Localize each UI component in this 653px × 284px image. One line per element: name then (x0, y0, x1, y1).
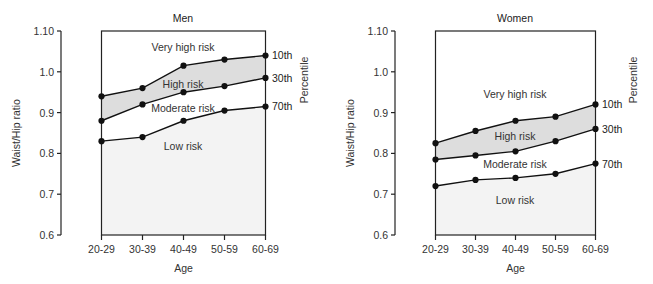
data-point (180, 89, 186, 95)
data-point (512, 175, 518, 181)
percentile-label: 10th (272, 49, 293, 61)
x-tick-label: 50-59 (211, 243, 238, 255)
percentile-label: 30th (602, 123, 623, 135)
data-point (472, 128, 478, 134)
figure-canvas: 0.60.70.80.91.01.1020-2930-3940-4950-596… (0, 0, 653, 284)
data-point (139, 134, 145, 140)
x-tick-label: 60-69 (582, 243, 609, 255)
data-point (472, 177, 478, 183)
data-point (472, 152, 478, 158)
region-label: Moderate risk (151, 102, 215, 114)
region-label: Very high risk (483, 88, 547, 100)
region-label: High risk (163, 78, 205, 90)
data-point (139, 85, 145, 91)
y-tick-label: 1.10 (368, 25, 389, 37)
data-point (432, 156, 438, 162)
percentile-label: 70th (272, 100, 293, 112)
data-point (98, 118, 104, 124)
data-point (180, 118, 186, 124)
x-tick-label: 50-59 (542, 243, 569, 255)
chart-women: 0.60.70.80.91.01.1020-2930-3940-4950-596… (344, 12, 639, 274)
percentile-axis-title: Percentile (627, 57, 639, 104)
percentile-axis-title: Percentile (298, 57, 310, 104)
data-point (262, 103, 268, 109)
y-axis-title: Waist/Hip ratio (344, 99, 356, 167)
chart-title: Men (173, 12, 194, 24)
y-tick-label: 0.8 (373, 147, 388, 159)
data-point (221, 107, 227, 113)
percentile-label: 10th (602, 98, 623, 110)
data-point (180, 63, 186, 69)
y-tick-label: 0.6 (39, 229, 54, 241)
y-tick-label: 1.0 (39, 66, 54, 78)
data-point (512, 148, 518, 154)
y-tick-label: 1.0 (373, 66, 388, 78)
region-label: Low risk (164, 140, 203, 152)
data-point (552, 138, 558, 144)
data-point (592, 101, 598, 107)
y-tick-label: 0.9 (373, 107, 388, 119)
data-point (221, 56, 227, 62)
x-axis-title: Age (506, 262, 525, 274)
data-point (98, 93, 104, 99)
data-point (512, 118, 518, 124)
y-tick-label: 0.7 (39, 188, 54, 200)
x-tick-label: 30-39 (129, 243, 156, 255)
y-axis-title: Waist/Hip ratio (10, 99, 22, 167)
data-point (262, 52, 268, 58)
chart-title: Women (497, 12, 533, 24)
x-tick-label: 40-49 (502, 243, 529, 255)
y-tick-label: 0.7 (373, 188, 388, 200)
x-tick-label: 30-39 (462, 243, 489, 255)
region-label: High risk (495, 130, 537, 142)
percentile-label: 70th (602, 158, 623, 170)
data-point (432, 140, 438, 146)
y-tick-label: 0.8 (39, 147, 54, 159)
data-point (98, 138, 104, 144)
data-point (432, 183, 438, 189)
data-point (592, 126, 598, 132)
chart-men: 0.60.70.80.91.01.1020-2930-3940-4950-596… (10, 12, 310, 274)
y-tick-label: 0.6 (373, 229, 388, 241)
data-point (592, 161, 598, 167)
x-tick-label: 40-49 (170, 243, 197, 255)
y-tick-label: 0.9 (39, 107, 54, 119)
region-label: Moderate risk (483, 158, 547, 170)
x-tick-label: 20-29 (422, 243, 449, 255)
data-point (221, 83, 227, 89)
percentile-label: 30th (272, 72, 293, 84)
region-label: Very high risk (151, 41, 215, 53)
x-tick-label: 20-29 (88, 243, 115, 255)
data-point (552, 171, 558, 177)
x-tick-label: 60-69 (252, 243, 279, 255)
x-axis-title: Age (174, 262, 193, 274)
data-point (139, 101, 145, 107)
y-tick-label: 1.10 (34, 25, 55, 37)
data-point (262, 75, 268, 81)
data-point (552, 114, 558, 120)
region-label: Low risk (496, 194, 535, 206)
